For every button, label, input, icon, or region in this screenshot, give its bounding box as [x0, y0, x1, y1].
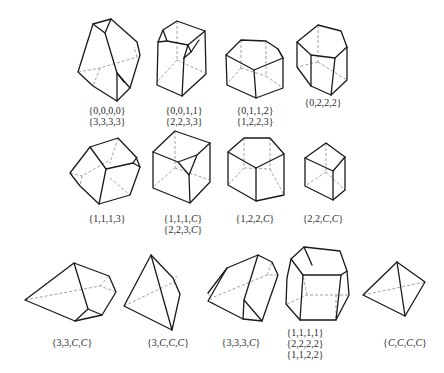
- polyhedron-p0222: [297, 25, 347, 95]
- visible-edge: [78, 19, 140, 101]
- hidden-edge: [266, 76, 283, 88]
- hidden-edge: [110, 138, 118, 163]
- visible-edge: [291, 259, 347, 275]
- visible-edge: [363, 262, 425, 316]
- visible-edge: [99, 169, 106, 204]
- label-line: {2,2,C,C}: [303, 213, 343, 224]
- label-line: {0,0,1,1}: [165, 105, 202, 116]
- visible-edge: [331, 58, 335, 95]
- visible-edge: [133, 157, 137, 163]
- visible-edge: [153, 143, 210, 162]
- hidden-edge: [287, 295, 349, 304]
- visible-edge: [244, 300, 262, 321]
- label-line: {1,1,2,2}: [286, 349, 323, 360]
- polyhedron-p1113: [70, 138, 140, 204]
- visible-edge: [25, 263, 116, 321]
- visible-edge: [163, 30, 205, 45]
- hidden-edge: [363, 282, 425, 295]
- hidden-edge: [78, 57, 137, 72]
- polyhedron-p0000: [78, 19, 140, 101]
- label-line: {3,C,C,C}: [147, 337, 189, 348]
- polyhedron-p0011: [157, 21, 206, 96]
- visible-edge: [228, 152, 284, 168]
- polyhedron-label-p122C: {1,2,2,C}: [236, 213, 275, 224]
- polyhedron-label-p111C: {1,1,1,C}{2,2,3,C}: [164, 213, 203, 235]
- visible-edge: [90, 147, 140, 169]
- visible-edge: [158, 41, 167, 42]
- polyhedron-p333C: [208, 255, 278, 321]
- hidden-edge: [228, 168, 244, 185]
- visible-edge: [304, 247, 312, 265]
- polyhedron-label-p0011: {0,0,1,1}{2,2,3,3}: [165, 105, 202, 127]
- hidden-edge: [227, 68, 241, 84]
- label-line: {2,2,2,2}: [286, 338, 323, 349]
- visible-edge: [208, 268, 227, 293]
- visible-edge: [300, 275, 303, 320]
- visible-edge: [336, 275, 341, 320]
- polyhedron-p1111: [286, 247, 349, 320]
- label-line: {1,2,2,C}: [236, 213, 275, 224]
- label-line: {1,1,1,1}: [286, 327, 323, 338]
- polyhedron-label-p33CC: {3,3,C,C}: [52, 337, 92, 348]
- hidden-edge: [134, 47, 137, 57]
- label-line: {3,3,3,3}: [88, 116, 125, 127]
- visible-edge: [297, 42, 347, 58]
- visible-edge: [74, 263, 102, 315]
- polyhedra-figure: [0, 0, 444, 373]
- hidden-edge: [153, 168, 175, 187]
- polyhedron-p3CCC: [124, 255, 180, 330]
- hidden-edge: [70, 160, 110, 176]
- visible-edge: [305, 143, 345, 200]
- label-line: {1,2,2,3}: [236, 116, 273, 127]
- polyhedron-p122C: [228, 138, 284, 201]
- polyhedron-label-pCCCC: {C,C,C,C}: [383, 337, 427, 348]
- polyhedron-label-p1111: {1,1,1,1}{2,2,2,2}{1,1,2,2}: [286, 327, 323, 360]
- label-line: {3,3,3,C}: [222, 337, 261, 348]
- visible-edge: [254, 70, 256, 98]
- polyhedron-label-p1113: {1,1,1,3}: [88, 213, 125, 224]
- polyhedron-label-p333C: {3,3,3,C}: [222, 337, 261, 348]
- polyhedron-p33CC: [25, 263, 116, 321]
- polyhedron-p0112: [226, 40, 283, 98]
- hidden-edge: [267, 262, 272, 275]
- hidden-edge: [297, 62, 318, 67]
- hidden-edge: [175, 168, 210, 180]
- label-line: {0,0,0,0}: [88, 105, 125, 116]
- label-line: {0,2,2,2}: [304, 97, 341, 108]
- label-line: {2,2,3,3}: [165, 116, 202, 127]
- polyhedron-p22CC: [305, 143, 345, 200]
- polyhedron-label-p3CCC: {3,C,C,C}: [147, 337, 189, 348]
- polyhedron-label-p0000: {0,0,0,0}{3,3,3,3}: [88, 105, 125, 127]
- visible-edge: [189, 175, 190, 203]
- hidden-edge: [305, 172, 326, 186]
- visible-edge: [305, 157, 345, 171]
- polyhedron-label-p22CC: {2,2,C,C}: [303, 213, 343, 224]
- hidden-edge: [93, 68, 100, 86]
- hidden-edge: [303, 275, 307, 295]
- label-line: {0,1,1,2}: [236, 105, 273, 116]
- hidden-edge: [157, 60, 177, 82]
- hidden-edge: [100, 276, 109, 286]
- label-line: {1,1,1,C}: [164, 213, 203, 224]
- hidden-edge: [25, 286, 116, 300]
- label-line: {1,1,1,3}: [88, 213, 125, 224]
- polyhedron-pCCCC: [363, 262, 425, 316]
- visible-edge: [226, 55, 283, 70]
- polyhedron-p111C: [153, 131, 210, 203]
- polyhedron-label-p0112: {0,1,1,2}{1,2,2,3}: [236, 105, 273, 127]
- visible-edge: [117, 73, 124, 82]
- hidden-edge: [110, 178, 130, 195]
- label-line: {3,3,C,C}: [52, 337, 92, 348]
- label-line: {2,2,3,C}: [164, 224, 203, 235]
- hidden-edge: [80, 176, 82, 186]
- visible-edge: [226, 40, 283, 98]
- hidden-edge: [124, 282, 180, 306]
- visible-edge: [397, 262, 405, 316]
- visible-edge: [182, 58, 184, 96]
- hidden-edge: [270, 169, 284, 195]
- hidden-edge: [326, 172, 345, 190]
- polyhedron-label-p0222: {0,2,2,2}: [304, 97, 341, 108]
- hidden-edge: [177, 60, 205, 73]
- visible-edge: [278, 49, 283, 58]
- visible-edge: [243, 255, 258, 319]
